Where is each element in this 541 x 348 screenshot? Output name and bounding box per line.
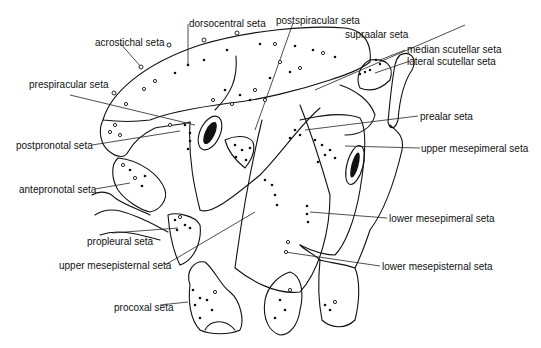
label-postpronotal-seta: postpronotal seta bbox=[16, 140, 93, 151]
label-supraalar-seta: supraalar seta bbox=[345, 29, 408, 40]
setae-dots bbox=[108, 31, 381, 319]
label-prealar-seta: prealar seta bbox=[420, 111, 473, 122]
label-antepronotal-seta: antepronotal seta bbox=[19, 184, 96, 195]
label-lateral-scutellar-seta: lateral scutellar seta bbox=[407, 56, 496, 67]
label-upper-mesepisternal-seta: upper mesepisternal seta bbox=[59, 260, 171, 271]
label-propleural-seta: propleural seta bbox=[87, 236, 153, 247]
label-dorsocentral-seta: dorsocentral seta bbox=[189, 18, 266, 29]
label-lower-mesepisternal-seta: lower mesepisternal seta bbox=[382, 261, 493, 272]
label-upper-mesepimeral-seta: upper mesepimeral seta bbox=[421, 143, 528, 154]
mesocoxa-outline bbox=[264, 272, 302, 335]
label-procoxal-seta: procoxal seta bbox=[114, 302, 173, 313]
label-lower-mesepimeral-seta: lower mesepimeral seta bbox=[389, 213, 495, 224]
thorax-diagram: dorsocentral seta acrostichal seta presp… bbox=[0, 0, 541, 348]
label-postspiracular-seta: postspiracular seta bbox=[276, 15, 360, 26]
label-acrostichal-seta: acrostichal seta bbox=[95, 37, 164, 48]
procoxa-outline bbox=[189, 262, 242, 334]
label-prespiracular-seta: prespiracular seta bbox=[29, 79, 108, 90]
label-median-scutellar-seta: median scutellar seta bbox=[407, 44, 502, 55]
